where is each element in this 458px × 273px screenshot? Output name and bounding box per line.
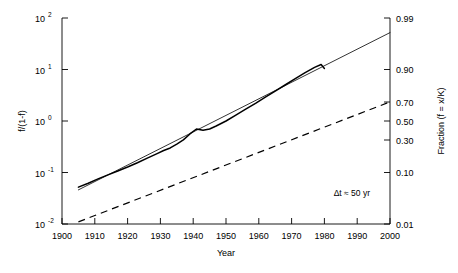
x-axis-tick-labels: 1900 1910 1920 1930 1940 1950 1960 1970 … (52, 231, 400, 241)
left-tick-exp-100: 2 (48, 11, 52, 18)
left-tick-exp-0p1: -1 (48, 166, 54, 173)
x-tick-label-1990: 1990 (347, 231, 367, 241)
logistic-growth-chart: 10 2 10 1 10 0 10 -1 10 -2 f/(1-f) 0.99 (0, 0, 458, 273)
logistic-fit-line (78, 33, 390, 190)
x-tick-label-1920: 1920 (118, 231, 138, 241)
left-axis-ticks (62, 18, 68, 224)
right-tick-label-0p50: 0.50 (396, 117, 414, 127)
x-axis-title: Year (217, 248, 235, 258)
left-tick-label-10: 10 (35, 66, 45, 76)
right-axis-ticks (384, 18, 390, 224)
x-tick-label-1950: 1950 (216, 231, 236, 241)
delta-t-annotation: Δt ≈ 50 yr (334, 188, 370, 198)
figure-container: 10 2 10 1 10 0 10 -1 10 -2 f/(1-f) 0.99 (0, 0, 458, 273)
x-tick-label-1940: 1940 (183, 231, 203, 241)
left-tick-exp-1: 0 (48, 114, 52, 121)
x-tick-label-1970: 1970 (282, 231, 302, 241)
right-tick-label-0p30: 0.30 (396, 136, 414, 146)
x-tick-label-1900: 1900 (52, 231, 72, 241)
data-curve (78, 65, 324, 188)
x-tick-label-1910: 1910 (85, 231, 105, 241)
left-tick-label-100: 10 (35, 14, 45, 24)
left-tick-exp-0p01: -2 (48, 217, 54, 224)
left-tick-label-1: 10 (35, 117, 45, 127)
slow-reference-line (78, 102, 390, 222)
y-axis-right-title: Fraction (f = x/K) (436, 88, 446, 155)
right-tick-label-0p99: 0.99 (396, 14, 414, 24)
x-tick-label-1960: 1960 (249, 231, 269, 241)
right-tick-label-0p01: 0.01 (396, 220, 414, 230)
right-tick-label-0p70: 0.70 (396, 98, 414, 108)
left-tick-exp-10: 1 (48, 63, 52, 70)
left-tick-label-0p1: 10 (35, 169, 45, 179)
x-tick-label-1930: 1930 (150, 231, 170, 241)
x-tick-label-2000: 2000 (380, 231, 400, 241)
x-tick-label-1980: 1980 (314, 231, 334, 241)
right-axis-tick-labels: 0.99 0.90 0.70 0.50 0.30 0.10 0.01 (396, 14, 414, 230)
right-tick-label-0p90: 0.90 (396, 65, 414, 75)
x-axis-ticks (62, 218, 390, 224)
left-axis-tick-labels: 10 2 10 1 10 0 10 -1 10 -2 (35, 11, 54, 230)
right-tick-label-0p10: 0.10 (396, 168, 414, 178)
y-axis-left-title: f/(1-f) (17, 110, 27, 132)
left-tick-label-0p01: 10 (35, 220, 45, 230)
